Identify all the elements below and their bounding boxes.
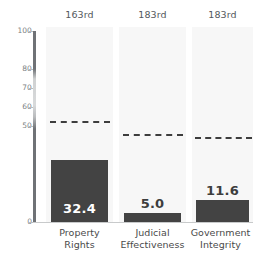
category-label-line-1: Judicial [117,227,188,239]
column-panel-judicial-effectiveness [119,27,186,222]
bar-chart: 163rd 183rd 183rd 100 80 70 60 50 0 32.4… [0,0,253,257]
category-label-line-1: Government [188,227,253,239]
value-label-property-rights: 32.4 [51,201,108,216]
x-axis-baseline [33,222,253,223]
category-label-judicial-effectiveness: Judicial Effectiveness [117,227,188,250]
bar-judicial-effectiveness[interactable] [124,213,181,222]
rank-header-property-rights: 163rd [46,9,113,20]
y-axis-line [33,31,36,222]
reference-line-government-integrity [195,137,252,139]
category-label-line-2: Integrity [188,239,253,251]
y-tick-mark-60 [29,107,33,108]
category-label-property-rights: Property Rights [44,227,115,250]
category-label-line-1: Property [44,227,115,239]
rank-header-government-integrity: 183rd [192,9,253,20]
bar-government-integrity[interactable] [196,200,249,222]
value-label-judicial-effectiveness: 5.0 [124,196,181,211]
y-tick-mark-80 [29,69,33,70]
reference-line-judicial-effectiveness [123,134,183,136]
category-label-government-integrity: Government Integrity [188,227,253,250]
y-tick-mark-50 [29,126,33,127]
rank-header-judicial-effectiveness: 183rd [119,9,186,20]
category-label-line-2: Rights [44,239,115,251]
y-tick-mark-100 [29,31,33,32]
y-tick-mark-70 [29,88,33,89]
category-label-line-2: Effectiveness [117,239,188,251]
reference-line-property-rights [50,121,110,123]
value-label-government-integrity: 11.6 [196,183,249,198]
